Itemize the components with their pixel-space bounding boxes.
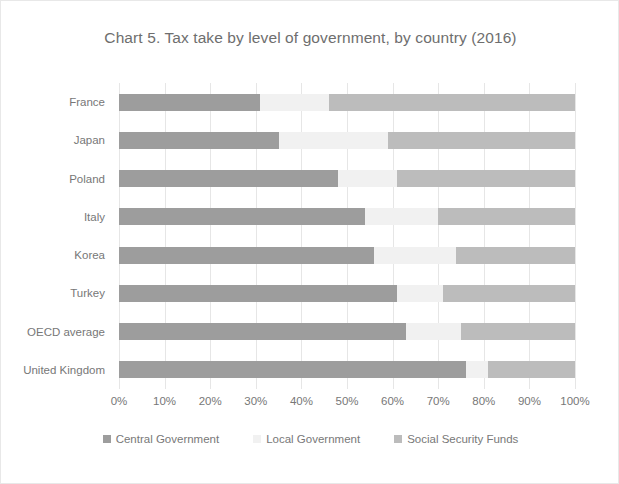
legend-label: Local Government bbox=[266, 433, 360, 445]
bar-segment[interactable] bbox=[119, 247, 374, 264]
x-axis-tick-0: 0% bbox=[111, 395, 128, 407]
bar-row[interactable] bbox=[119, 208, 575, 225]
x-axis-tick-70: 70% bbox=[427, 395, 450, 407]
bar-segment[interactable] bbox=[365, 208, 438, 225]
y-axis-labels: FranceJapanPolandItalyKoreaTurkeyOECD av… bbox=[1, 83, 113, 389]
y-axis-label-france: France bbox=[69, 96, 105, 108]
x-axis-labels: 0%10%20%30%40%50%60%70%80%90%100% bbox=[119, 395, 575, 413]
bar-segment[interactable] bbox=[329, 94, 575, 111]
x-axis-tick-40: 40% bbox=[290, 395, 313, 407]
bar-segment[interactable] bbox=[119, 170, 338, 187]
bar-segment[interactable] bbox=[119, 285, 397, 302]
bar-row[interactable] bbox=[119, 361, 575, 378]
bar-segment[interactable] bbox=[388, 132, 575, 149]
legend-label: Social Security Funds bbox=[407, 433, 518, 445]
chart-card: Chart 5. Tax take by level of government… bbox=[0, 0, 619, 484]
y-axis-label-japan: Japan bbox=[74, 134, 105, 146]
legend-item[interactable]: Social Security Funds bbox=[394, 433, 518, 445]
x-axis-tick-20: 20% bbox=[199, 395, 222, 407]
x-axis-tick-60: 60% bbox=[381, 395, 404, 407]
x-axis-tick-100: 100% bbox=[560, 395, 589, 407]
plot-area bbox=[119, 83, 575, 389]
bar-segment[interactable] bbox=[374, 247, 456, 264]
bar-series-container bbox=[119, 83, 575, 389]
y-axis-label-united-kingdom: United Kingdom bbox=[23, 364, 105, 376]
legend-item[interactable]: Local Government bbox=[253, 433, 360, 445]
bar-row[interactable] bbox=[119, 94, 575, 111]
x-axis-tick-50: 50% bbox=[335, 395, 358, 407]
bar-segment[interactable] bbox=[456, 247, 575, 264]
bar-segment[interactable] bbox=[466, 361, 489, 378]
bar-segment[interactable] bbox=[119, 132, 279, 149]
bar-segment[interactable] bbox=[119, 323, 406, 340]
y-axis-label-oecd-average: OECD average bbox=[27, 326, 105, 338]
bar-row[interactable] bbox=[119, 247, 575, 264]
y-axis-label-turkey: Turkey bbox=[70, 287, 105, 299]
legend-label: Central Government bbox=[116, 433, 220, 445]
bar-segment[interactable] bbox=[438, 208, 575, 225]
y-axis-label-poland: Poland bbox=[69, 173, 105, 185]
legend-swatch-icon bbox=[253, 435, 261, 443]
bar-segment[interactable] bbox=[119, 361, 466, 378]
bar-segment[interactable] bbox=[119, 94, 260, 111]
bar-segment[interactable] bbox=[260, 94, 328, 111]
bar-segment[interactable] bbox=[488, 361, 575, 378]
bar-segment[interactable] bbox=[443, 285, 575, 302]
y-axis-label-italy: Italy bbox=[84, 211, 105, 223]
bar-segment[interactable] bbox=[406, 323, 461, 340]
legend-swatch-icon bbox=[103, 435, 111, 443]
chart-title: Chart 5. Tax take by level of government… bbox=[1, 29, 619, 47]
y-axis-label-korea: Korea bbox=[74, 249, 105, 261]
bar-segment[interactable] bbox=[338, 170, 397, 187]
x-axis-tick-80: 80% bbox=[472, 395, 495, 407]
bar-row[interactable] bbox=[119, 285, 575, 302]
bar-segment[interactable] bbox=[461, 323, 575, 340]
x-axis-tick-10: 10% bbox=[153, 395, 176, 407]
bar-row[interactable] bbox=[119, 132, 575, 149]
x-axis-tick-90: 90% bbox=[518, 395, 541, 407]
bar-segment[interactable] bbox=[119, 208, 365, 225]
bar-row[interactable] bbox=[119, 323, 575, 340]
bar-segment[interactable] bbox=[397, 170, 575, 187]
bar-segment[interactable] bbox=[397, 285, 443, 302]
gridline-100 bbox=[575, 83, 576, 389]
legend-item[interactable]: Central Government bbox=[103, 433, 220, 445]
x-axis-tick-30: 30% bbox=[244, 395, 267, 407]
bar-row[interactable] bbox=[119, 170, 575, 187]
bar-segment[interactable] bbox=[279, 132, 388, 149]
chart-legend: Central GovernmentLocal GovernmentSocial… bbox=[1, 433, 619, 445]
legend-swatch-icon bbox=[394, 435, 402, 443]
